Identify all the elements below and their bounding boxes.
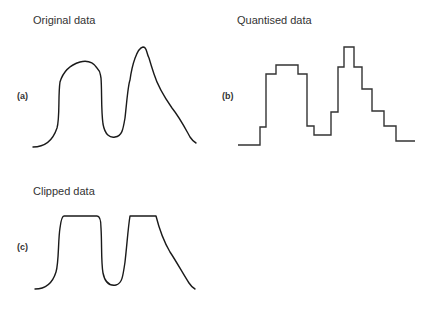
quantised-data-steps [238, 47, 415, 145]
diagram-canvas [0, 0, 435, 309]
clipped-data-curve [35, 216, 195, 289]
original-data-curve [33, 47, 196, 147]
